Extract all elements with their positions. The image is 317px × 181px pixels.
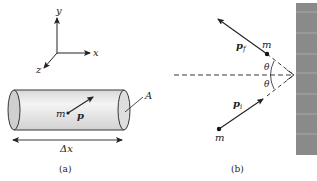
caption-b: (b) [231, 164, 244, 174]
area-label: A [144, 90, 152, 101]
angle-top-label: θ [264, 62, 270, 72]
coordinate-axes: y x z [35, 5, 99, 75]
initial-momentum-label: pi [233, 98, 242, 111]
cylinder-left-face [8, 90, 20, 130]
z-axis-label: z [35, 64, 42, 75]
caption-a: (a) [59, 164, 71, 174]
length-label: Δx [59, 143, 73, 154]
cylinder-right-face [118, 90, 130, 130]
physics-diagram: y x z A m p Δx (a) θ θ m pf m [0, 0, 317, 181]
angle-bottom-label: θ [264, 79, 270, 89]
particle-mass-label: m [56, 108, 65, 119]
wall [296, 3, 317, 155]
y-axis-label: y [55, 5, 62, 16]
z-axis-arrow [44, 53, 57, 68]
momentum-label: p [77, 110, 84, 121]
final-mass-label: m [262, 39, 271, 50]
initial-mass-label: m [215, 132, 224, 143]
final-momentum-label: pf [236, 40, 247, 53]
cylinder: A m p [8, 90, 152, 130]
x-axis-label: x [93, 47, 99, 58]
